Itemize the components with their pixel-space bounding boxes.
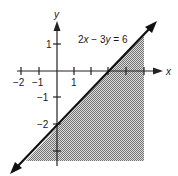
x-axis: x −2 −1 1 — [13, 66, 172, 88]
x-axis-label: x — [165, 66, 172, 77]
equation-label: 2x − 3y = 6 — [78, 34, 128, 45]
x-axis-arrow-icon — [153, 68, 163, 75]
y-tick-label: −2 — [37, 119, 49, 130]
x-tick-label: 1 — [71, 77, 77, 88]
y-axis-arrow-icon — [54, 21, 61, 31]
x-tick-label: −1 — [32, 77, 44, 88]
y-axis-label: y — [53, 9, 60, 20]
x-tick-label: −2 — [13, 77, 25, 88]
inequality-graph: x −2 −1 1 y 1 −1 −2 2x − 3y = 6 — [0, 0, 178, 176]
y-tick-label: −1 — [37, 92, 49, 103]
y-tick-label: 1 — [46, 39, 52, 50]
